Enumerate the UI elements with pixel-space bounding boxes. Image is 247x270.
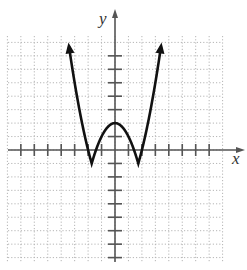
x-axis-label: x xyxy=(231,149,240,168)
function-graph: y x xyxy=(0,0,247,270)
curve-arrow-icon xyxy=(156,43,165,55)
y-axis-arrow-icon xyxy=(112,9,118,18)
curve-arrow-icon xyxy=(66,43,75,55)
y-axis-label: y xyxy=(97,9,107,28)
